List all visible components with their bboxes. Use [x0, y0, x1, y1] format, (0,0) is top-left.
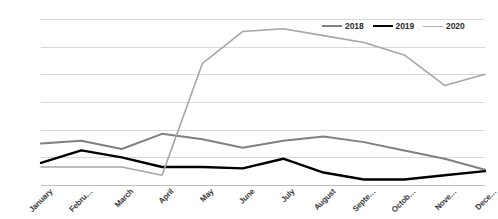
x-axis: JanuaryFebru…MarchAprilMayJuneJulyAugust… [41, 187, 485, 219]
x-axis-tick-label: Septe… [351, 187, 378, 214]
legend-item-2020[interactable]: 2020 [423, 21, 465, 31]
x-axis-tick-label: July [279, 187, 296, 204]
legend-item-2019[interactable]: 2019 [373, 21, 415, 31]
chart-legend: 201820192020 [322, 19, 465, 33]
legend-item-2018[interactable]: 2018 [322, 21, 364, 31]
x-axis-tick-label: Nove… [433, 187, 458, 212]
x-axis-tick-label: May [199, 187, 216, 204]
x-axis-tick-label: June [237, 187, 256, 206]
axis-baseline [41, 185, 485, 186]
x-axis-tick-label: April [157, 187, 176, 206]
legend-swatch-2018 [322, 25, 342, 27]
legend-swatch-2019 [373, 25, 393, 27]
x-axis-tick-label: January [27, 187, 54, 214]
x-axis-tick-label: Febru… [68, 187, 95, 214]
x-axis-tick-label: Dece… [474, 187, 498, 212]
y-axis: 0%10%20%30%40%50%60% [41, 19, 485, 185]
x-axis-tick-label: Octob… [390, 187, 418, 215]
legend-label-2018: 2018 [345, 21, 364, 31]
x-axis-tick-label: August [312, 187, 337, 212]
legend-swatch-2020 [423, 26, 443, 27]
legend-label-2019: 2019 [396, 21, 415, 31]
x-axis-tick-label: March [113, 187, 135, 209]
legend-label-2020: 2020 [446, 21, 465, 31]
